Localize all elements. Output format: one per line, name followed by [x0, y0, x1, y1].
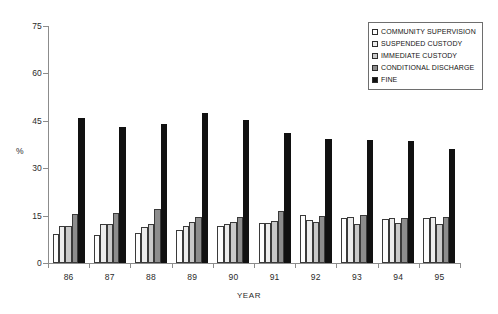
- legend-item: SUSPENDED CUSTODY: [372, 38, 479, 49]
- x-axis-tick-label: 94: [378, 272, 418, 282]
- x-axis-tick: [130, 263, 131, 268]
- x-axis-tick-label: 89: [172, 272, 212, 282]
- bar-chart: 01530456075 % YEAR COMMUNITY SUPERVISION…: [0, 0, 498, 314]
- y-axis-tick-label: 75: [12, 22, 42, 31]
- bar-group: [259, 26, 291, 263]
- x-axis-tick: [254, 263, 255, 268]
- legend-swatch-icon: [372, 41, 378, 47]
- y-axis-tick: [43, 73, 49, 74]
- y-axis-tick: [43, 168, 49, 169]
- legend-item-label: FINE: [381, 76, 397, 83]
- y-axis-tick-label: 15: [12, 212, 42, 221]
- legend-swatch-icon: [372, 65, 378, 71]
- legend-item-label: COMMUNITY SUPERVISION: [381, 28, 476, 35]
- y-axis-tick-label: 0: [12, 259, 42, 268]
- bar: [325, 139, 331, 263]
- x-axis-tick: [48, 263, 49, 268]
- x-axis-tick-label: 87: [90, 272, 130, 282]
- x-axis-tick: [460, 263, 461, 268]
- bar-group: [176, 26, 208, 263]
- y-axis-title: %: [16, 146, 24, 156]
- x-axis-tick-label: 90: [213, 272, 253, 282]
- x-axis-tick: [213, 263, 214, 268]
- bar: [161, 124, 167, 263]
- x-axis-tick: [419, 263, 420, 268]
- bar: [449, 149, 455, 263]
- x-axis-tick: [172, 263, 173, 268]
- legend-swatch-icon: [372, 77, 378, 83]
- x-axis-tick-label: 93: [337, 272, 377, 282]
- x-axis-tick-label: 88: [131, 272, 171, 282]
- x-axis-title: YEAR: [0, 291, 498, 300]
- bar-group: [94, 26, 126, 263]
- x-axis-tick: [336, 263, 337, 268]
- x-axis-tick: [295, 263, 296, 268]
- bar-group: [300, 26, 332, 263]
- bar: [202, 113, 208, 263]
- legend-item: FINE: [372, 74, 479, 85]
- bar: [408, 141, 414, 263]
- bar-group: [217, 26, 249, 263]
- x-axis-tick-label: 95: [419, 272, 459, 282]
- bar-group: [135, 26, 167, 263]
- bar: [243, 120, 249, 263]
- y-axis-tick: [43, 216, 49, 217]
- y-axis-tick: [43, 26, 49, 27]
- legend-item: IMMEDIATE CUSTODY: [372, 50, 479, 61]
- legend-item-label: IMMEDIATE CUSTODY: [381, 52, 457, 59]
- bar-group: [53, 26, 85, 263]
- x-axis-tick-label: 86: [49, 272, 89, 282]
- legend-item: CONDITIONAL DISCHARGE: [372, 62, 479, 73]
- legend-item-label: SUSPENDED CUSTODY: [381, 40, 462, 47]
- x-axis-tick: [89, 263, 90, 268]
- bar: [367, 140, 373, 263]
- bar: [119, 127, 125, 263]
- bar: [284, 133, 290, 263]
- x-axis-tick: [378, 263, 379, 268]
- y-axis-tick-label: 60: [12, 69, 42, 78]
- x-axis-tick-label: 92: [296, 272, 336, 282]
- y-axis-tick: [43, 121, 49, 122]
- y-axis-tick-label: 45: [12, 117, 42, 126]
- legend-item-label: CONDITIONAL DISCHARGE: [381, 64, 474, 71]
- legend-swatch-icon: [372, 53, 378, 59]
- legend: COMMUNITY SUPERVISIONSUSPENDED CUSTODYIM…: [368, 22, 483, 90]
- legend-item: COMMUNITY SUPERVISION: [372, 26, 479, 37]
- y-axis-tick-label: 30: [12, 164, 42, 173]
- bar: [78, 118, 84, 263]
- x-axis-tick-label: 91: [255, 272, 295, 282]
- legend-swatch-icon: [372, 29, 378, 35]
